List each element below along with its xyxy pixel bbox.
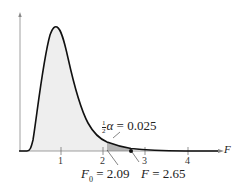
f0-name: F — [81, 166, 89, 181]
alpha-annotation: 12α = 0.025 — [102, 119, 156, 135]
f-name: F — [141, 166, 149, 181]
f-leader-line — [132, 152, 139, 162]
fraction-numerator: 1 — [102, 120, 106, 127]
half-fraction: 12 — [102, 120, 106, 135]
tick-label-2: 2 — [100, 156, 105, 166]
f0-annotation: F0 = 2.09 — [81, 167, 130, 184]
tick-label-4: 4 — [185, 156, 190, 166]
y-axis-arrow-icon — [18, 12, 21, 17]
tick-label-1: 1 — [58, 156, 63, 166]
x-axis-label-text: F — [224, 143, 231, 155]
f-value: = 2.65 — [149, 166, 186, 181]
alpha-value: = 0.025 — [113, 118, 156, 133]
x-axis-label: F — [224, 144, 231, 155]
tick-label-3: 3 — [142, 156, 147, 166]
f0-leader-line — [107, 150, 118, 165]
f-distribution-chart — [0, 0, 233, 193]
fraction-denominator: 2 — [102, 127, 106, 135]
critical-point-dot — [129, 149, 133, 153]
f-annotation: F = 2.65 — [141, 167, 186, 180]
f0-value: = 2.09 — [93, 166, 130, 181]
